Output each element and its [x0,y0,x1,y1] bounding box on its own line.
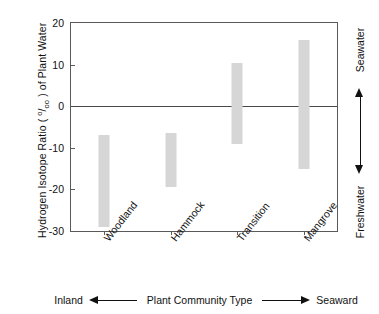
hydrogen-isotope-range-chart: Hydrogen Isotope Ratio ( o/oo ) of Plant… [0,0,379,314]
plot-area: 20100-10-20-30 [70,22,338,232]
water-source-annotation: Seawater Freshwater [344,16,376,244]
y-tick-label: 20 [29,17,71,29]
y-axis-title-prefix: Hydrogen Isotope Ratio ( [36,116,48,238]
freshwater-label: Freshwater [354,186,366,239]
inland-label: Inland [54,294,83,306]
range-bar [99,135,110,227]
plant-community-type-label: Plant Community Type [147,294,252,306]
range-bar [298,40,309,169]
arrow-right-icon [258,296,310,305]
y-tick-label: -20 [29,183,71,195]
range-bar [232,63,243,144]
y-tick-label: -10 [29,142,71,154]
y-axis-title: Hydrogen Isotope Ratio ( o/oo ) of Plant… [35,5,52,255]
x-axis-caption: Inland Plant Community Type Seaward [56,291,356,309]
arrow-up-down-icon [355,88,366,174]
range-bar [165,133,176,187]
y-tick-label: -30 [29,225,71,237]
y-tick-label: 0 [29,100,71,112]
seawater-label: Seawater [354,28,366,72]
zero-reference-line [71,106,337,107]
y-tick-mark [71,65,75,66]
seaward-label: Seaward [316,294,357,306]
y-tick-mark [71,189,75,190]
arrow-left-icon [89,296,141,305]
y-tick-mark [71,148,75,149]
y-tick-label: 10 [29,59,71,71]
